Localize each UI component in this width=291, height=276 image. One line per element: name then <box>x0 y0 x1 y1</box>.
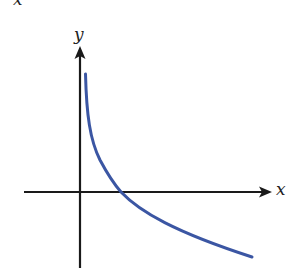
y-axis-label: y <box>74 26 84 43</box>
graph-canvas <box>0 0 291 276</box>
graph-figure: x y x <box>0 0 291 276</box>
top-cut-label: x <box>13 0 23 8</box>
x-axis-label: x <box>276 181 286 198</box>
log-curve <box>86 74 253 257</box>
